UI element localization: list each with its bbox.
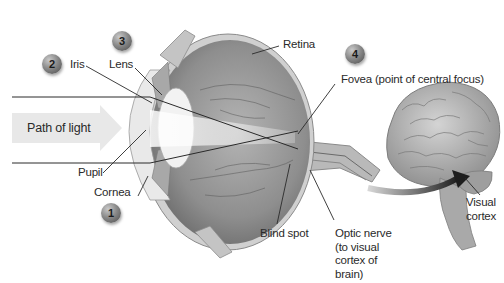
visual-cortex-line-2: cortex — [466, 210, 496, 224]
eyeball — [129, 30, 314, 258]
iris-label: Iris — [70, 58, 85, 71]
badge-3: 3 — [112, 31, 132, 51]
fovea-label: Fovea (point of central focus) — [341, 73, 484, 86]
optic-nerve-line-1: Optic nerve — [335, 227, 392, 241]
blind-spot-label: Blind spot — [260, 227, 309, 240]
eye-diagram: Path of light Iris Lens Retina Fovea (po… — [0, 0, 504, 283]
visual-cortex-line-1: Visual — [466, 196, 496, 210]
lens-label: Lens — [109, 58, 133, 71]
pupil-label: Pupil — [78, 166, 103, 179]
retina-label: Retina — [283, 38, 315, 51]
badge-2: 2 — [42, 54, 62, 74]
optic-nerve-line-2: (to visual — [335, 241, 392, 255]
brain — [387, 82, 500, 250]
badge-1: 1 — [101, 203, 121, 223]
visual-cortex-label: Visual cortex — [466, 196, 496, 223]
cornea-label: Cornea — [94, 186, 131, 199]
eye-illustration — [0, 0, 504, 283]
optic-nerve-line-4: brain) — [335, 268, 392, 282]
badge-4: 4 — [345, 44, 365, 64]
optic-nerve-label: Optic nerve (to visual cortex of brain) — [335, 227, 392, 281]
path-of-light-label: Path of light — [27, 122, 90, 135]
optic-nerve-line-3: cortex of — [335, 254, 392, 268]
